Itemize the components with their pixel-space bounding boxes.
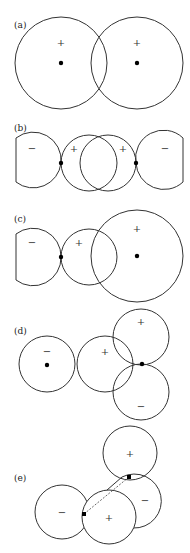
- nucleus-dot: [82, 512, 86, 516]
- panel-d: (d) − + + −: [14, 309, 169, 420]
- sign-plus: +: [57, 37, 65, 48]
- truncated-orbital-left: [16, 228, 61, 286]
- sign-plus: +: [119, 143, 127, 154]
- sign-minus: −: [43, 346, 51, 357]
- sign-plus: +: [101, 346, 109, 357]
- nucleus-dot: [59, 61, 63, 65]
- nucleus-dot: [135, 61, 139, 65]
- panel-d-label: (d): [14, 326, 27, 336]
- panel-a: (a) + +: [14, 17, 183, 109]
- sign-plus: +: [126, 448, 134, 459]
- nucleus-dot: [45, 363, 49, 367]
- sign-plus: +: [75, 237, 83, 248]
- orbital-overlap-diagram: (a) + + (b) − + + − (c) − + + (d): [0, 0, 190, 553]
- nucleus-dot: [127, 475, 131, 479]
- nucleus-dot: [59, 255, 63, 259]
- sign-plus: +: [137, 316, 145, 327]
- sign-minus: −: [28, 143, 36, 154]
- sign-minus: −: [28, 237, 36, 248]
- sign-plus: +: [133, 37, 141, 48]
- sign-minus: −: [141, 495, 149, 506]
- panel-b: (b) − + + −: [14, 123, 183, 191]
- sign-plus: +: [105, 512, 113, 523]
- nucleus-dot: [135, 254, 139, 258]
- panel-e-label: (e): [14, 473, 26, 483]
- panel-c: (c) − + +: [14, 210, 183, 302]
- nucleus-dot: [134, 161, 138, 165]
- truncated-orbital-right: [136, 130, 183, 189]
- nucleus-dot: [59, 161, 63, 165]
- panel-e: (e) + − − +: [14, 426, 161, 544]
- sign-minus: −: [58, 507, 66, 518]
- truncated-orbital-left: [16, 132, 61, 188]
- orbital-circle: [77, 336, 133, 392]
- sign-minus: −: [137, 401, 145, 412]
- nucleus-dot: [140, 362, 144, 366]
- sign-minus: −: [161, 143, 169, 154]
- orbital-circle: [61, 229, 117, 285]
- sign-plus: +: [133, 223, 141, 234]
- panel-c-label: (c): [14, 214, 26, 224]
- orbital-circle: [80, 135, 136, 191]
- sign-plus: +: [70, 143, 78, 154]
- panel-b-label: (b): [14, 123, 27, 133]
- panel-a-label: (a): [14, 20, 26, 30]
